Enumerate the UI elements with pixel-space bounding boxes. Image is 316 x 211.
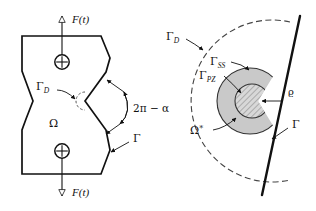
crack-line xyxy=(262,16,300,195)
gamma-d-leader-right xyxy=(186,39,203,50)
notch-angle-arc-arrowhead-lower xyxy=(120,92,128,124)
figure-canvas: F(t) F(t) Ω ΓD 2π − α Γ xyxy=(0,0,316,211)
omega-label: Ω xyxy=(49,117,58,130)
gamma-ss-label: ΓSS xyxy=(210,55,225,70)
gamma-pz-label: ΓPZ xyxy=(199,69,216,84)
notch-angle-label: 2π − α xyxy=(133,102,169,114)
left-diagram: F(t) F(t) Ω ΓD 2π − α Γ xyxy=(22,13,169,199)
notch-angle-tail-upper xyxy=(107,80,124,92)
rho-label: ϱ xyxy=(288,86,294,97)
gamma-d-label-right: ΓD xyxy=(166,30,180,45)
right-diagram: ΓD ΓSS ΓPZ ϱ Ω* Γ xyxy=(166,16,300,195)
force-bottom-label: F(t) xyxy=(71,186,89,199)
gamma-outer-leader-left xyxy=(111,142,129,152)
gamma-outer-label-left: Γ xyxy=(133,132,141,145)
omega-star-label: Ω* xyxy=(190,124,203,138)
figure-root: F(t) F(t) Ω ΓD 2π − α Γ xyxy=(0,0,316,211)
force-top-label: F(t) xyxy=(71,13,89,26)
notch-angle-tail-lower xyxy=(106,124,120,134)
gamma-outer-label-right: Γ xyxy=(292,118,300,131)
